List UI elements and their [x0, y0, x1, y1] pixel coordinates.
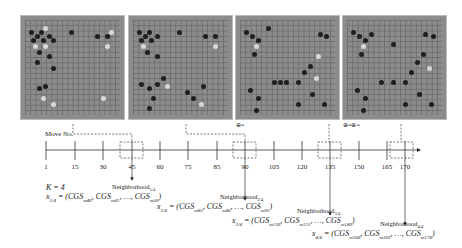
marker-m135: ⊕=⊕= [343, 121, 360, 128]
k-value: K = 4 [46, 183, 65, 192]
tick-150: 150 [354, 163, 365, 171]
tick-165: 165 [382, 163, 393, 171]
tick-135: 135 [325, 163, 336, 171]
tick-15: 15 [72, 163, 79, 171]
neighborhood-3: Neighborhood3/4 [297, 207, 340, 216]
tick-170: 170 [400, 163, 411, 171]
neighborhood-4: Neighborhood4/4 [380, 220, 423, 229]
tick-75: 75 [185, 163, 192, 171]
formula-x3: x3/4 = (CGSm130, CGSm131, …, CGSm140) [232, 216, 355, 227]
move-number-label: Move No. [45, 130, 73, 138]
formula-x2: x2/4 = (CGSm85, CGSm86, …, CGSm95) [157, 202, 272, 213]
neighborhood-2: Neighborhood2/4 [220, 193, 263, 202]
tick-60: 60 [157, 163, 164, 171]
marker-m90: ⊕= [236, 121, 244, 128]
tick-105: 105 [269, 163, 280, 171]
tick-90: 90 [242, 163, 249, 171]
tick-45: 45 [129, 163, 136, 171]
tick-1: 1 [44, 163, 48, 171]
tick-120: 120 [297, 163, 308, 171]
formula-x1: x1/4 = (CGSm40, CGSm41, …, CGSm50) [46, 192, 161, 203]
neighborhood-1: Neighborhood1/4 [112, 183, 155, 192]
formula-x4: x4/4 = (CGSm168, CGSm169, …, CGSm178) [312, 229, 435, 240]
tick-30: 30 [100, 163, 107, 171]
tick-90-alt: 85 [214, 163, 221, 171]
